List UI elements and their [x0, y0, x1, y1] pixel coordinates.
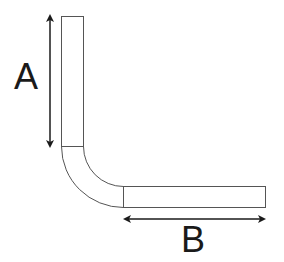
- diagram-canvas: A B: [0, 0, 284, 262]
- dimension-label-a: A: [14, 56, 38, 97]
- vertical-leg: [62, 17, 84, 147]
- bend-inner-edge: [84, 147, 124, 187]
- horizontal-leg: [124, 187, 266, 208]
- bent-bar-diagram: A B: [0, 0, 284, 262]
- dimension-label-b: B: [181, 219, 205, 260]
- bend-outer-edge: [62, 147, 124, 208]
